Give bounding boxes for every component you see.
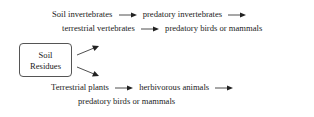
branch-arrow-down-icon bbox=[77, 67, 99, 77]
node-terrestrial-plants: Terrestrial plants bbox=[51, 82, 109, 92]
arrow-right-icon bbox=[115, 83, 133, 93]
bottom-chain-line-2: predatory birds or mammals bbox=[78, 96, 175, 106]
node-herbivorous-animals: herbivorous animals bbox=[139, 82, 209, 92]
node-predatory-birds-or-mammals-bottom: predatory birds or mammals bbox=[78, 96, 175, 106]
branch-arrow-up-icon bbox=[77, 46, 99, 56]
bottom-chain-line-1: Terrestrial plants herbivorous animals bbox=[51, 82, 237, 93]
arrow-right-icon bbox=[215, 83, 233, 93]
